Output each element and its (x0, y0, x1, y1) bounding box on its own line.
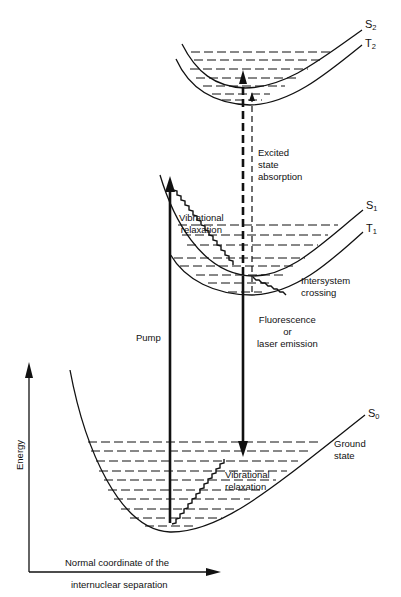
s0-curve (70, 370, 365, 532)
esa-arrows (239, 70, 255, 292)
s2-curve (182, 30, 362, 88)
fluor-line-1: Fluorescence (257, 314, 318, 326)
x-axis-label-line-2: internuclear separation (71, 579, 168, 591)
label-fluorescence: Fluorescence or laser emission (257, 314, 318, 350)
isc-line-1: Intersystem (301, 275, 350, 287)
vibrational-relaxation-lower-wavy (172, 459, 224, 524)
label-vibrational-relaxation-lower: Vibrational relaxation (225, 469, 270, 493)
label-s0: S0 (368, 407, 380, 421)
esa-arrowhead-t-icon (249, 92, 255, 101)
ground-line-2: state (334, 450, 366, 462)
t2-name: T (365, 37, 372, 49)
t1-sub: 1 (373, 227, 377, 236)
isc-line-2: crossing (301, 287, 350, 299)
x-axis-arrow-icon (206, 568, 221, 576)
s0-sub: 0 (375, 412, 379, 421)
vr-upper-line-2: relaxation (179, 224, 224, 236)
label-s1: S1 (366, 199, 378, 213)
esa-line-2: state (258, 159, 302, 171)
ground-line-1: Ground (334, 438, 366, 450)
x-axis-label-line-1: Normal coordinate of the (65, 557, 169, 569)
label-t1: T1 (366, 222, 377, 236)
fluor-line-2: or (257, 326, 318, 338)
t2-curve (176, 45, 362, 105)
label-excited-state-absorption: Excited state absorption (258, 147, 302, 183)
esa-line-3: absorption (258, 171, 302, 183)
vr-lower-line-2: relaxation (225, 481, 270, 493)
esa-arrowhead-s-icon (239, 70, 247, 84)
fluor-line-3: laser emission (257, 338, 318, 350)
vr-lower-line-1: Vibrational (225, 469, 270, 481)
axes (25, 362, 221, 576)
s2-sub: 2 (372, 23, 376, 32)
esa-line-1: Excited (258, 147, 302, 159)
vr-upper-line-1: Vibrational (179, 212, 224, 224)
label-vibrational-relaxation-upper: Vibrational relaxation (179, 212, 224, 236)
y-axis-label: Energy (14, 440, 25, 470)
t1-name: T (366, 222, 373, 234)
label-s2: S2 (365, 18, 377, 32)
label-t2: T2 (365, 37, 376, 51)
fluorescence-arrowhead-icon (238, 441, 248, 457)
t2-sub: 2 (372, 42, 376, 51)
s1-sub: 1 (373, 204, 377, 213)
ground-state (70, 370, 365, 532)
upper-states (176, 30, 362, 105)
label-intersystem-crossing: Intersystem crossing (301, 275, 350, 299)
label-pump: Pump (136, 332, 161, 344)
label-ground-state: Ground state (334, 438, 366, 462)
y-axis-arrow-icon (25, 362, 33, 378)
fluorescence-arrow (238, 276, 248, 457)
